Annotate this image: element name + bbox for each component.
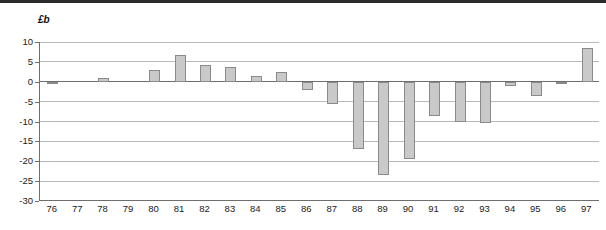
y-axis-tick-mark <box>35 82 39 83</box>
y-axis-tick-mark <box>35 141 39 142</box>
bar <box>404 82 415 160</box>
x-axis-tick-label: 81 <box>174 203 185 214</box>
x-axis-tick-label: 83 <box>225 203 236 214</box>
x-axis-tick-label: 91 <box>428 203 439 214</box>
bar <box>429 82 440 116</box>
x-axis-tick-label: 90 <box>403 203 414 214</box>
y-axis-tick-label: -15 <box>0 135 33 146</box>
bar <box>582 48 593 82</box>
x-axis-tick-label: 82 <box>199 203 210 214</box>
x-axis-tick-label: 96 <box>556 203 567 214</box>
bar <box>531 82 542 96</box>
bar <box>98 78 109 82</box>
chart-figure: £b 1050-5-10-15-20-25-30 767778798081828… <box>0 0 606 230</box>
bar <box>378 82 389 175</box>
x-axis-tick-label: 89 <box>377 203 388 214</box>
y-axis-tick-mark <box>35 201 39 202</box>
y-axis-tick-label: -30 <box>0 195 33 206</box>
bar <box>225 67 236 81</box>
bar <box>251 76 262 82</box>
bar <box>149 70 160 82</box>
bar <box>556 82 567 85</box>
x-axis-tick-label: 97 <box>581 203 592 214</box>
x-axis-tick-label: 84 <box>250 203 261 214</box>
x-axis-tick-label: 80 <box>148 203 159 214</box>
x-axis-tick-label: 93 <box>479 203 490 214</box>
bar <box>175 55 186 82</box>
x-axis-tick-label: 77 <box>72 203 83 214</box>
bar <box>276 72 287 82</box>
x-axis-tick-label: 79 <box>123 203 134 214</box>
bar <box>302 82 313 90</box>
bar <box>327 82 338 104</box>
y-axis-unit-label: £b <box>38 14 50 25</box>
y-axis-tick-mark <box>35 161 39 162</box>
y-axis-tick-mark <box>35 62 39 63</box>
x-axis-tick-label: 87 <box>326 203 337 214</box>
x-axis-tick-label: 86 <box>301 203 312 214</box>
x-axis-tick-label: 88 <box>352 203 363 214</box>
top-divider-rule <box>0 0 606 3</box>
x-axis-tick-label: 95 <box>530 203 541 214</box>
bar <box>353 82 364 150</box>
y-axis-tick-label: 0 <box>0 76 33 87</box>
y-axis-tick-label: -10 <box>0 116 33 127</box>
y-axis-tick-mark <box>35 181 39 182</box>
x-axis-tick-label: 92 <box>454 203 465 214</box>
bar <box>200 65 211 82</box>
y-axis-tick-label: 5 <box>0 56 33 67</box>
y-axis-tick-mark <box>35 42 39 43</box>
y-axis-tick-label: -5 <box>0 96 33 107</box>
x-axis-tick-label: 76 <box>46 203 57 214</box>
bar <box>480 82 491 124</box>
x-axis-tick-label: 78 <box>97 203 108 214</box>
bar-series <box>40 42 599 200</box>
x-axis-tick-labels: 7677787980818283848586878889909192939495… <box>39 203 599 223</box>
y-axis-tick-label: 10 <box>0 36 33 47</box>
bar <box>455 82 466 122</box>
x-axis-tick-label: 94 <box>505 203 516 214</box>
plot-area <box>39 42 599 201</box>
y-axis-tick-label: -25 <box>0 175 33 186</box>
y-axis-tick-mark <box>35 122 39 123</box>
bar <box>505 82 516 86</box>
x-axis-tick-label: 85 <box>276 203 287 214</box>
y-axis-tick-label: -20 <box>0 155 33 166</box>
y-axis-tick-mark <box>35 102 39 103</box>
bar <box>47 82 58 85</box>
